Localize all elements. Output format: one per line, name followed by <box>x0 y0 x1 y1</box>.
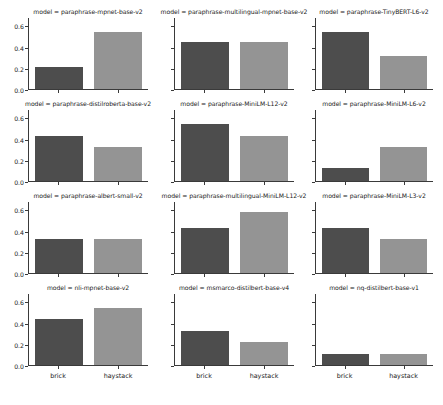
x-axis-tick <box>204 366 205 369</box>
bars-container <box>175 202 294 273</box>
y-axis-tick <box>171 26 174 27</box>
bars-container <box>175 110 294 181</box>
y-axis-tick <box>312 274 315 275</box>
y-axis-tick <box>25 182 28 183</box>
y-axis-tick-label: 0.2 <box>14 65 24 72</box>
bar-haystack <box>240 212 288 273</box>
y-axis-tick-label: 0.0 <box>14 179 24 186</box>
x-axis-line <box>28 181 148 182</box>
bar-brick <box>35 239 83 273</box>
facet-grid-figure: model = paraphrase-mpnet-base-v20.00.20.… <box>0 0 443 405</box>
y-axis-tick <box>25 274 28 275</box>
bar-haystack <box>240 42 288 89</box>
bars-container <box>316 18 433 89</box>
facet-plot-area <box>174 294 294 366</box>
facet-plot-area <box>315 110 433 182</box>
x-axis-tick-label: haystack <box>250 372 279 380</box>
y-axis-tick <box>312 26 315 27</box>
y-axis-tick <box>25 302 28 303</box>
x-axis-tick <box>118 182 119 185</box>
x-axis-line <box>315 365 433 366</box>
bar-brick <box>181 331 229 365</box>
y-axis-tick <box>171 69 174 70</box>
bar-brick <box>322 228 369 273</box>
y-axis-tick-label: 0.4 <box>14 44 24 51</box>
bar-haystack <box>240 342 288 365</box>
y-axis-tick <box>312 345 315 346</box>
bar-haystack <box>240 136 288 181</box>
facet-plot-area <box>174 110 294 182</box>
bar-brick <box>322 168 369 181</box>
y-axis-tick <box>25 26 28 27</box>
y-axis-tick-label: 0.4 <box>14 136 24 143</box>
facet-title: model = paraphrase-TinyBERT-L6-v2 <box>289 7 443 18</box>
facet-plot-area <box>174 202 294 274</box>
y-axis-tick <box>312 69 315 70</box>
bars-container <box>29 202 148 273</box>
bars-container <box>29 294 148 365</box>
x-axis-tick <box>404 90 405 93</box>
y-axis-tick <box>312 48 315 49</box>
x-axis-line <box>28 365 148 366</box>
y-axis-tick-label: 0.0 <box>14 87 24 94</box>
y-axis-tick <box>171 345 174 346</box>
y-axis-tick <box>25 118 28 119</box>
facet-plot-area: 0.00.20.40.6 <box>28 18 148 90</box>
y-axis-tick-label: 0.0 <box>14 271 24 278</box>
bar-brick <box>322 32 369 89</box>
x-axis-line <box>174 89 294 90</box>
bar-haystack <box>380 239 427 273</box>
x-axis-tick <box>58 90 59 93</box>
y-axis-tick-label: 0.6 <box>14 299 24 306</box>
y-axis-tick <box>312 182 315 183</box>
bar-brick <box>35 136 83 181</box>
y-axis-tick-label: 0.2 <box>14 249 24 256</box>
y-axis-tick <box>312 140 315 141</box>
y-axis-tick <box>312 302 315 303</box>
y-axis-tick-label: 0.6 <box>14 23 24 30</box>
facet-plot-area: 0.00.20.40.6 <box>28 294 148 366</box>
y-axis-tick <box>25 48 28 49</box>
x-axis-tick <box>58 182 59 185</box>
bar-brick <box>35 67 83 89</box>
y-axis-tick-label: 0.6 <box>14 207 24 214</box>
bars-container <box>316 202 433 273</box>
x-axis-line <box>315 89 433 90</box>
x-axis-tick <box>264 274 265 277</box>
y-axis-tick <box>171 302 174 303</box>
x-axis-tick <box>118 274 119 277</box>
y-axis-tick <box>171 232 174 233</box>
bars-container <box>29 18 148 89</box>
bar-haystack <box>380 354 427 365</box>
x-axis-tick <box>118 90 119 93</box>
x-axis-tick <box>204 182 205 185</box>
bar-haystack <box>94 32 142 89</box>
x-axis-tick-label: brick <box>50 372 66 380</box>
x-axis-tick <box>264 182 265 185</box>
y-axis-tick <box>25 69 28 70</box>
x-axis-line <box>315 181 433 182</box>
bar-brick <box>181 124 229 181</box>
y-axis-tick <box>171 118 174 119</box>
y-axis-tick <box>25 366 28 367</box>
y-axis-tick <box>171 48 174 49</box>
x-axis-tick <box>404 182 405 185</box>
x-axis-tick <box>58 274 59 277</box>
bar-brick <box>181 42 229 89</box>
x-axis-tick-label: brick <box>196 372 212 380</box>
x-axis-line <box>174 273 294 274</box>
y-axis-tick <box>25 232 28 233</box>
bar-haystack <box>94 239 142 273</box>
y-axis-tick <box>312 232 315 233</box>
bars-container <box>175 294 294 365</box>
x-axis-line <box>28 273 148 274</box>
facet-plot-area <box>174 18 294 90</box>
y-axis-tick <box>171 324 174 325</box>
x-axis-line <box>174 181 294 182</box>
bars-container <box>316 294 433 365</box>
x-axis-tick <box>345 366 346 369</box>
y-axis-tick <box>171 140 174 141</box>
facet-title: model = paraphrase-MiniLM-L3-v2 <box>289 191 443 202</box>
facet-plot-area <box>315 202 433 274</box>
x-axis-tick <box>345 90 346 93</box>
